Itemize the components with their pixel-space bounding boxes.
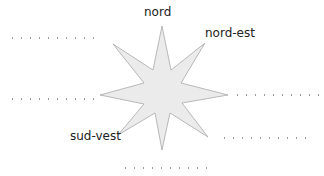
blank-northwest[interactable]	[8, 37, 98, 39]
label-northeast: nord-est	[205, 26, 255, 40]
compass-star-icon	[0, 0, 324, 176]
blank-south[interactable]	[121, 167, 211, 169]
blank-east[interactable]	[233, 94, 319, 96]
compass-rose-diagram: nord nord-est sud-vest	[0, 0, 324, 176]
label-north: nord	[144, 5, 171, 19]
blank-west[interactable]	[8, 98, 98, 100]
blank-southeast[interactable]	[220, 137, 310, 139]
label-southwest: sud-vest	[70, 129, 121, 143]
